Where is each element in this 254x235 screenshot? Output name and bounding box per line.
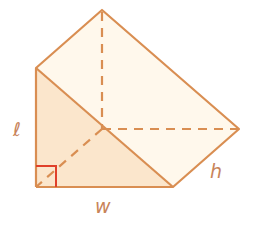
prism-diagram: ℓ w h xyxy=(0,0,254,235)
label-length: ℓ xyxy=(12,118,21,140)
label-width: w xyxy=(95,195,111,217)
label-height: h xyxy=(210,160,222,182)
